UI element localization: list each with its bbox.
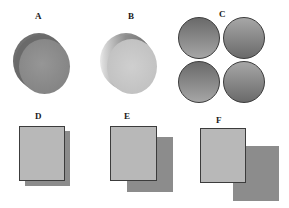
rect-d-front bbox=[19, 126, 65, 181]
rect-f-front bbox=[200, 128, 246, 183]
figure-stage: A B C D E F bbox=[0, 0, 289, 208]
panel-label-a: A bbox=[35, 12, 42, 21]
panel-label-b: B bbox=[128, 12, 134, 21]
panel-label-c: C bbox=[219, 10, 226, 19]
circle-c-bottom-left bbox=[178, 61, 220, 103]
panel-label-d: D bbox=[35, 112, 42, 121]
rect-e-front bbox=[110, 126, 157, 181]
panel-label-f: F bbox=[216, 116, 222, 125]
cylinder-a-front bbox=[19, 39, 70, 94]
cylinder-b-front bbox=[107, 39, 157, 94]
panel-label-e: E bbox=[124, 112, 130, 121]
circle-c-bottom-right bbox=[223, 61, 265, 103]
circle-c-top-right bbox=[223, 17, 265, 59]
circle-c-top-left bbox=[178, 17, 220, 59]
